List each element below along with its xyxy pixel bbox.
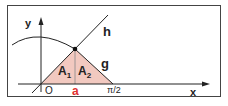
line-h-label: h	[103, 25, 111, 38]
point-a-label: a	[72, 85, 79, 97]
line-g-label: g	[101, 57, 109, 70]
x-axis-arrow-icon	[202, 82, 210, 87]
origin-label: O	[45, 86, 53, 96]
x-axis-label: x	[190, 87, 196, 98]
y-axis-label: y	[25, 18, 31, 29]
area-a2-label: A2	[78, 65, 91, 80]
pi-half-label: π/2	[107, 86, 121, 95]
area-a1-label: A1	[58, 65, 71, 80]
cos-curve	[12, 37, 75, 49]
y-axis-arrow-icon	[39, 17, 44, 25]
intersection-point	[73, 47, 78, 52]
